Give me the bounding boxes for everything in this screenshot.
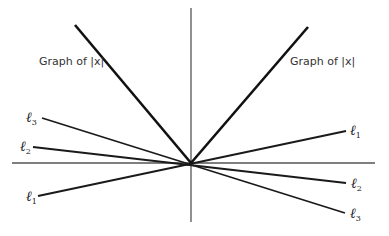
abs-graph-left-branch	[75, 25, 191, 163]
abs-graph-label-left: Graph of |x|	[39, 56, 104, 67]
label-l2-left: ℓ2	[20, 139, 31, 156]
label-l1-left: ℓ1	[26, 189, 37, 206]
label-l3-right: ℓ3	[350, 206, 361, 223]
diagram-canvas	[0, 0, 389, 236]
label-l3-left: ℓ3	[26, 110, 37, 127]
label-l1-right: ℓ1	[350, 123, 361, 140]
abs-graph-label-right: Graph of |x|	[290, 56, 355, 67]
line-l3	[42, 118, 345, 213]
label-l2-right: ℓ2	[351, 176, 362, 193]
